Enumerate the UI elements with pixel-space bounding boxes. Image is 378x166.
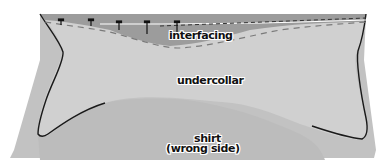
undercollar-label: undercollar [177, 75, 244, 86]
shirt-wrong-side-label: (wrong side) [166, 143, 240, 154]
interfacing-label: interfacing [169, 30, 233, 41]
collar-diagram: interfacing undercollar shirt (wrong sid… [0, 0, 378, 166]
